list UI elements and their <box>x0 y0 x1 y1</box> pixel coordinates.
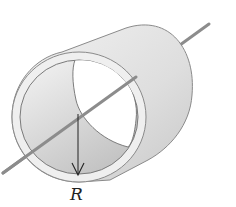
radius-label: R <box>70 184 83 204</box>
hollow-cylinder-diagram <box>0 0 236 207</box>
